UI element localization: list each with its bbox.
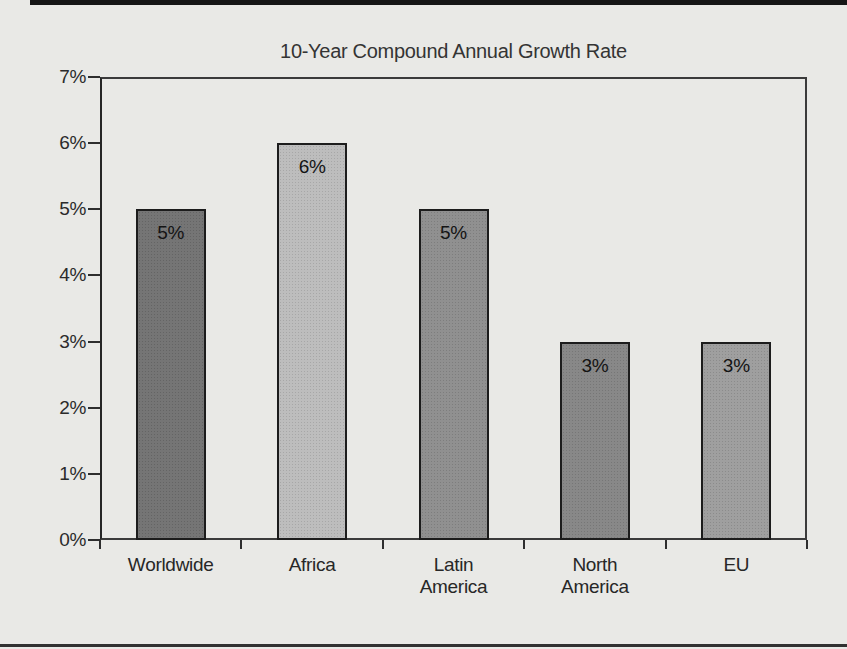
scanned-page: 10-Year Compound Annual Growth Rate 0%1%… <box>0 0 847 649</box>
x-tick-mark <box>240 540 242 549</box>
y-tick-label: 0% <box>34 529 86 551</box>
bar: 3% <box>701 342 771 540</box>
x-category-label: EU <box>665 554 807 576</box>
y-tick-mark <box>88 274 100 276</box>
y-tick-mark <box>88 407 100 409</box>
y-tick-label: 7% <box>34 66 86 88</box>
chart-title: 10-Year Compound Annual Growth Rate <box>100 40 807 63</box>
y-tick-label: 5% <box>34 198 86 220</box>
bar-value-label: 5% <box>138 222 204 244</box>
y-tick-label: 3% <box>34 331 86 353</box>
x-tick-mark <box>806 540 808 549</box>
x-tick-mark <box>523 540 525 549</box>
y-tick-mark <box>88 341 100 343</box>
bar: 3% <box>560 342 630 540</box>
bar: 6% <box>277 143 347 540</box>
bar-value-label: 6% <box>279 156 345 178</box>
x-category-label: Latin America <box>383 554 525 598</box>
page-top-rule <box>30 0 847 5</box>
x-tick-mark <box>99 540 101 549</box>
y-tick-label: 6% <box>34 132 86 154</box>
y-tick-label: 2% <box>34 397 86 419</box>
y-tick-mark <box>88 473 100 475</box>
x-category-label: North America <box>524 554 666 598</box>
bar-value-label: 3% <box>703 355 769 377</box>
y-tick-label: 4% <box>34 264 86 286</box>
page-bottom-rule <box>0 644 847 647</box>
bar-value-label: 3% <box>562 355 628 377</box>
bar-value-label: 5% <box>421 222 487 244</box>
bar: 5% <box>419 209 489 540</box>
y-tick-mark <box>88 142 100 144</box>
x-tick-mark <box>665 540 667 549</box>
y-tick-label: 1% <box>34 463 86 485</box>
x-category-label: Africa <box>241 554 383 576</box>
x-category-label: Worldwide <box>100 554 242 576</box>
x-tick-mark <box>382 540 384 549</box>
bar: 5% <box>136 209 206 540</box>
y-tick-mark <box>88 76 100 78</box>
y-tick-mark <box>88 208 100 210</box>
